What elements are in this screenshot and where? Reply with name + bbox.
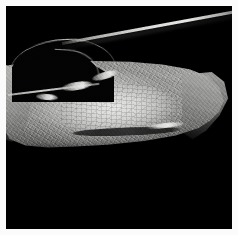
photographic-plate <box>6 6 232 229</box>
right-tissue-taper-region <box>182 72 230 142</box>
specimen-image-root <box>0 0 238 235</box>
bright-diagonal-band <box>62 8 232 45</box>
plate-content <box>6 6 232 229</box>
